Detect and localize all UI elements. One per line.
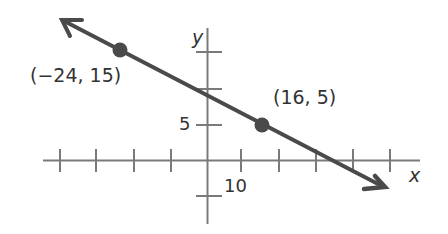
graph-canvas [0,0,448,234]
y-axis-label: y [192,28,203,47]
point-label-1: (−24, 15) [30,66,121,85]
point-marker-2 [255,118,270,133]
x-tick-label-10: 10 [224,177,247,195]
point-label-2: (16, 5) [273,88,336,107]
x-axis-label: x [409,166,420,185]
y-tick-label-5: 5 [179,115,190,133]
y-ticks [196,52,222,196]
point-marker-1 [113,43,128,58]
